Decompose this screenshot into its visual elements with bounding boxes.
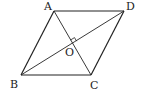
edge-dc bbox=[91, 11, 124, 75]
label-d: D bbox=[126, 0, 135, 13]
label-c: C bbox=[90, 79, 98, 92]
label-o: O bbox=[65, 46, 74, 59]
rhombus-diagram: A D B C O bbox=[0, 0, 141, 96]
label-a: A bbox=[43, 0, 53, 13]
edge-ba bbox=[21, 11, 54, 75]
label-b: B bbox=[10, 78, 18, 91]
diagonal-bd bbox=[21, 11, 124, 75]
